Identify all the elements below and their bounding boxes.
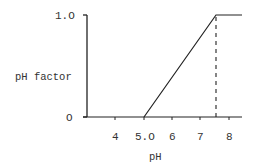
x-tick-label-4: 4	[112, 131, 119, 143]
x-tick-label-7: 7	[197, 131, 204, 143]
ph-factor-chart: 1.O O pH factor 4 5.O 6 7 8 pH	[0, 0, 255, 166]
x-axis-label: pH	[149, 151, 162, 163]
x-tick-label-8: 8	[226, 131, 233, 143]
y-tick-label-top: 1.O	[55, 10, 75, 22]
y-tick-label-bottom: O	[66, 112, 73, 124]
y-axis-label: pH factor	[15, 71, 72, 83]
ph-factor-line	[144, 15, 242, 117]
x-tick-label-5: 5.O	[135, 131, 155, 143]
x-tick-label-6: 6	[169, 131, 176, 143]
